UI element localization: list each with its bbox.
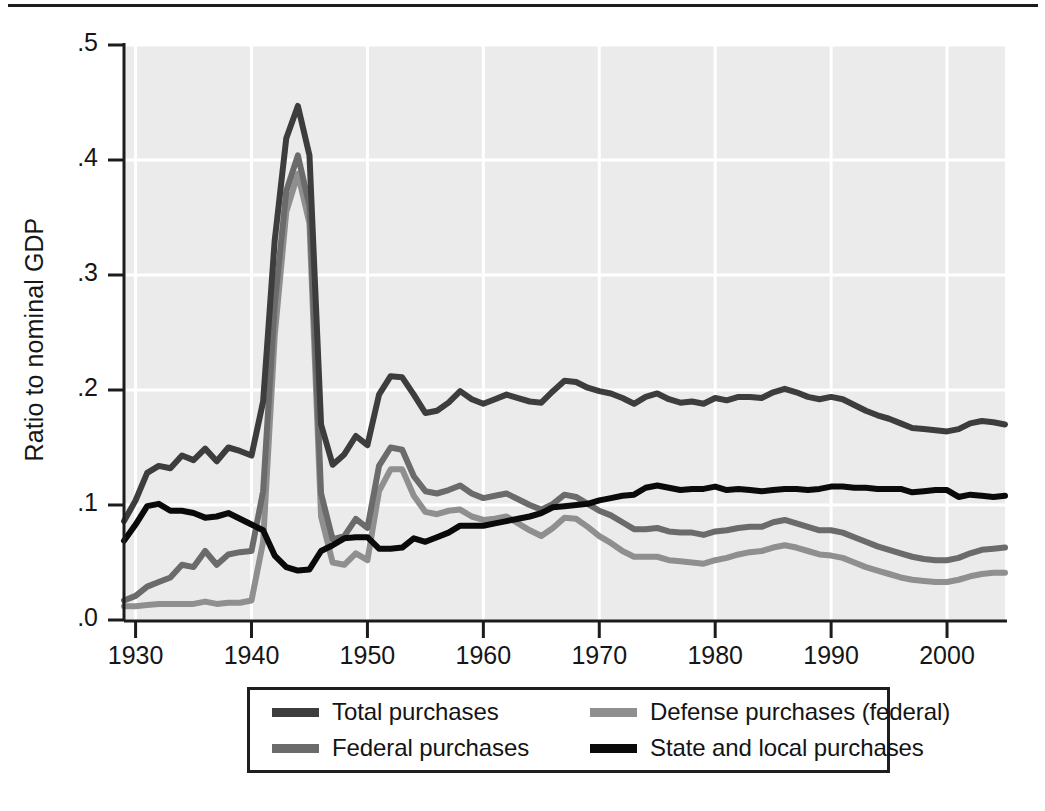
legend-item-defense-purchases[interactable]: Defense purchases (federal) (590, 698, 950, 726)
legend-label-federal-purchases: Federal purchases (332, 734, 529, 762)
legend-item-state-local-purchases[interactable]: State and local purchases (590, 734, 950, 762)
legend-item-federal-purchases[interactable]: Federal purchases (272, 734, 590, 762)
x-tick-label: 1930 (81, 641, 191, 670)
y-tick-label: .3 (44, 258, 98, 287)
x-tick-label: 1950 (312, 641, 422, 670)
legend-label-total-purchases: Total purchases (332, 698, 499, 726)
x-tick-label: 1990 (776, 641, 886, 670)
legend-swatch-total-purchases (272, 708, 319, 717)
chart-legend: Total purchases Defense purchases (feder… (247, 687, 890, 773)
y-tick-label: .1 (44, 488, 98, 517)
x-tick-label: 1970 (544, 641, 654, 670)
page-bottom-text-fragment (8, 795, 1038, 809)
legend-item-total-purchases[interactable]: Total purchases (272, 698, 590, 726)
x-tick-label: 1960 (428, 641, 538, 670)
chart-figure: Ratio to nominal GDP .0.1.2.3.4.5 193019… (0, 0, 1045, 811)
x-tick-label: 2000 (892, 641, 1002, 670)
legend-swatch-state-local-purchases (590, 744, 637, 753)
y-tick-label: .0 (44, 603, 98, 632)
legend-swatch-federal-purchases (272, 744, 319, 753)
x-tick-label: 1980 (660, 641, 770, 670)
y-axis-title: Ratio to nominal GDP (20, 160, 49, 520)
legend-swatch-defense-purchases (590, 708, 637, 717)
legend-label-state-local-purchases: State and local purchases (650, 734, 924, 762)
y-tick-label: .4 (44, 143, 98, 172)
x-tick-label: 1940 (197, 641, 307, 670)
legend-label-defense-purchases: Defense purchases (federal) (650, 698, 950, 726)
y-tick-label: .5 (44, 28, 98, 57)
y-tick-label: .2 (44, 373, 98, 402)
